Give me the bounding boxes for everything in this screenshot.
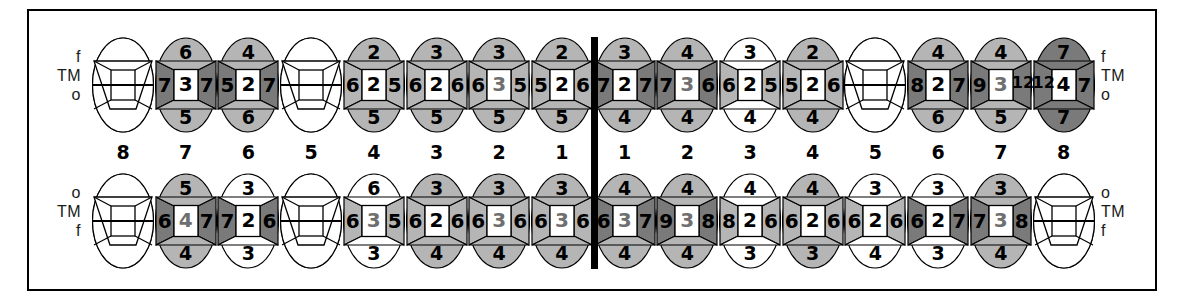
tooth-left-3[interactable]: 34626 bbox=[406, 173, 468, 269]
tooth-reading-mesial: 5 bbox=[533, 75, 549, 95]
tooth-right-7[interactable]: 459312 bbox=[970, 37, 1032, 133]
tooth-reading-mesial: 6 bbox=[909, 211, 925, 231]
tooth-reading-center: 3 bbox=[615, 210, 635, 230]
tooth-reading-mesial: 6 bbox=[470, 75, 486, 95]
tooth-reading-distal: 6 bbox=[826, 211, 842, 231]
tooth-reading-center: 3 bbox=[552, 210, 572, 230]
tooth-reading-bottom: 5 bbox=[155, 108, 217, 127]
tooth-number-right-1: 1 bbox=[594, 141, 656, 163]
tooth-reading-mesial: 6 bbox=[157, 211, 173, 231]
tooth-left-4[interactable]: 25625 bbox=[343, 37, 405, 133]
tooth-reading-bottom: 3 bbox=[343, 244, 405, 263]
tooth-reading-mesial: 6 bbox=[721, 75, 737, 95]
tooth-left-6[interactable]: 46527 bbox=[217, 37, 279, 133]
tooth-reading-top: 2 bbox=[782, 43, 844, 62]
tooth-reading-center: 3 bbox=[991, 74, 1011, 94]
tooth-reading-distal: 6 bbox=[512, 211, 528, 231]
tooth-reading-distal: 12 bbox=[1012, 75, 1032, 91]
label-lower-o-right: o bbox=[1101, 183, 1147, 202]
tooth-reading-top: 4 bbox=[719, 179, 781, 198]
tooth-reading-distal: 7 bbox=[261, 75, 277, 95]
tooth-right-5[interactable] bbox=[844, 37, 906, 133]
tooth-reading-top: 6 bbox=[343, 179, 405, 198]
tooth-right-1[interactable]: 34727 bbox=[594, 37, 656, 133]
tooth-reading-mesial: 7 bbox=[972, 211, 988, 231]
tooth-left-8[interactable] bbox=[92, 173, 154, 269]
tooth-right-2[interactable]: 44938 bbox=[656, 173, 718, 269]
lower-arch-row-labels: o TM f bbox=[35, 183, 81, 240]
tooth-left-2[interactable]: 35635 bbox=[468, 37, 530, 133]
tooth-right-7[interactable]: 34738 bbox=[970, 173, 1032, 269]
tooth-right-3[interactable]: 43826 bbox=[719, 173, 781, 269]
tooth-right-2[interactable]: 44736 bbox=[656, 37, 718, 133]
tooth-number-right-2: 2 bbox=[656, 141, 718, 163]
tooth-right-6[interactable]: 33627 bbox=[907, 173, 969, 269]
tooth-reading-bottom: 3 bbox=[217, 244, 279, 263]
tooth-number-right-7: 7 bbox=[970, 141, 1032, 163]
tooth-reading-center: 2 bbox=[552, 74, 572, 94]
tooth-left-5[interactable] bbox=[280, 37, 342, 133]
tooth-reading-distal: 7 bbox=[951, 75, 967, 95]
tooth-left-2[interactable]: 34636 bbox=[468, 173, 530, 269]
tooth-reading-mesial: 7 bbox=[658, 75, 674, 95]
tooth-reading-top: 3 bbox=[468, 43, 530, 62]
tooth-reading-mesial: 6 bbox=[345, 211, 361, 231]
tooth-reading-bottom: 4 bbox=[468, 244, 530, 263]
tooth-reading-center: 3 bbox=[176, 74, 196, 94]
tooth-reading-bottom: 4 bbox=[155, 244, 217, 263]
tooth-left-8[interactable] bbox=[92, 37, 154, 133]
tooth-reading-distal: 7 bbox=[951, 211, 967, 231]
label-upper-f: f bbox=[35, 47, 81, 66]
tooth-right-4[interactable]: 43626 bbox=[782, 173, 844, 269]
tooth-reading-bottom: 5 bbox=[531, 108, 593, 127]
upper-arch-row-labels: f TM o bbox=[35, 47, 81, 104]
tooth-reading-distal: 6 bbox=[763, 211, 779, 231]
tooth-reading-top: 3 bbox=[719, 43, 781, 62]
tooth-reading-distal: 6 bbox=[450, 211, 466, 231]
tooth-right-4[interactable]: 24526 bbox=[782, 37, 844, 133]
tooth-reading-mesial: 7 bbox=[219, 211, 235, 231]
tooth-left-7[interactable]: 65737 bbox=[155, 37, 217, 133]
tooth-reading-top: 3 bbox=[970, 179, 1032, 198]
tooth-reading-distal: 6 bbox=[700, 75, 716, 95]
tooth-reading-mesial: 5 bbox=[219, 75, 235, 95]
tooth-left-3[interactable]: 35626 bbox=[406, 37, 468, 133]
upper-arch-row-labels-right: f TM o bbox=[1101, 47, 1147, 104]
tooth-number-left-5: 5 bbox=[280, 141, 342, 163]
label-lower-o: o bbox=[35, 183, 81, 202]
tooth-right-6[interactable]: 46827 bbox=[907, 37, 969, 133]
tooth-number-left-1: 1 bbox=[531, 141, 593, 163]
tooth-reading-center: 2 bbox=[803, 74, 823, 94]
tooth-reading-distal: 8 bbox=[1014, 211, 1030, 231]
tooth-left-6[interactable]: 33726 bbox=[217, 173, 279, 269]
tooth-reading-bottom: 7 bbox=[1033, 108, 1095, 127]
tooth-reading-top: 7 bbox=[1033, 43, 1095, 62]
tooth-reading-mesial: 7 bbox=[157, 75, 173, 95]
tooth-reading-mesial: 6 bbox=[408, 211, 424, 231]
tooth-left-4[interactable]: 63635 bbox=[343, 173, 405, 269]
label-upper-tm: TM bbox=[35, 66, 81, 85]
tooth-left-1[interactable]: 34636 bbox=[531, 173, 593, 269]
tooth-left-5[interactable] bbox=[280, 173, 342, 269]
tooth-reading-top: 6 bbox=[155, 43, 217, 62]
tooth-reading-mesial: 8 bbox=[909, 75, 925, 95]
tooth-reading-center: 2 bbox=[364, 74, 384, 94]
tooth-reading-center: 2 bbox=[803, 210, 823, 230]
tooth-reading-distal: 6 bbox=[826, 75, 842, 95]
tooth-left-7[interactable]: 54647 bbox=[155, 173, 217, 269]
tooth-reading-center: 4 bbox=[176, 210, 196, 230]
tooth-reading-center: 2 bbox=[238, 210, 258, 230]
label-upper-f-right: f bbox=[1101, 47, 1147, 66]
tooth-right-5[interactable]: 34626 bbox=[844, 173, 906, 269]
tooth-number-left-6: 6 bbox=[217, 141, 279, 163]
tooth-left-1[interactable]: 25526 bbox=[531, 37, 593, 133]
tooth-right-3[interactable]: 34625 bbox=[719, 37, 781, 133]
tooth-right-8[interactable]: 771247 bbox=[1033, 37, 1095, 133]
tooth-number-right-4: 4 bbox=[782, 141, 844, 163]
tooth-reading-center: 2 bbox=[865, 210, 885, 230]
label-upper-o-right: o bbox=[1101, 85, 1147, 104]
tooth-right-8[interactable] bbox=[1033, 173, 1095, 269]
tooth-right-1[interactable]: 44637 bbox=[594, 173, 656, 269]
tooth-reading-bottom: 6 bbox=[217, 108, 279, 127]
tooth-reading-bottom: 4 bbox=[970, 244, 1032, 263]
